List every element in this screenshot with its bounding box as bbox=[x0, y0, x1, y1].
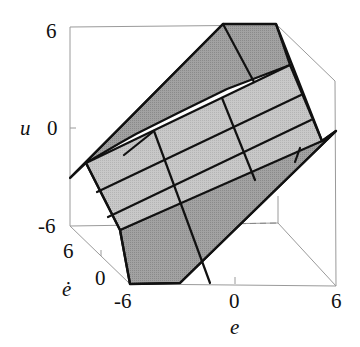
z-axis-label: u bbox=[20, 116, 31, 140]
x-tick-6: 6 bbox=[331, 289, 342, 313]
z-tick-0: 0 bbox=[47, 116, 58, 140]
y-tick-0: 0 bbox=[95, 266, 106, 290]
x-tick-0: 0 bbox=[229, 289, 240, 313]
y-axis-label: ė bbox=[62, 277, 71, 301]
z-tick-6: 6 bbox=[46, 19, 57, 43]
y-tick-6: 6 bbox=[63, 239, 74, 263]
x-tick-neg6: -6 bbox=[114, 289, 132, 313]
z-tick-neg6: -6 bbox=[38, 214, 56, 238]
x-axis-label: e bbox=[230, 315, 239, 339]
surface-plot: 6 u 0 -6 6 0 ė -6 0 6 e bbox=[0, 0, 360, 347]
